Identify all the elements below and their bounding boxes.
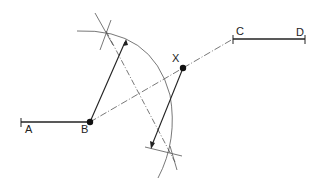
point-x-icon (180, 65, 186, 71)
arrowhead-upper-icon (123, 39, 128, 46)
compass-arc-large (77, 31, 172, 178)
line-bc-construction (90, 39, 233, 122)
line-x-to-arc (152, 68, 183, 145)
label-b: B (81, 124, 88, 135)
label-a: A (25, 124, 32, 135)
label-x: X (172, 53, 179, 64)
perpendicular-bisector (106, 31, 175, 162)
arrowhead-lower-icon (150, 141, 155, 149)
label-d: D (296, 27, 304, 38)
line-b-to-arc (90, 42, 125, 122)
construction-drawing (0, 0, 323, 186)
label-c: C (236, 26, 244, 37)
